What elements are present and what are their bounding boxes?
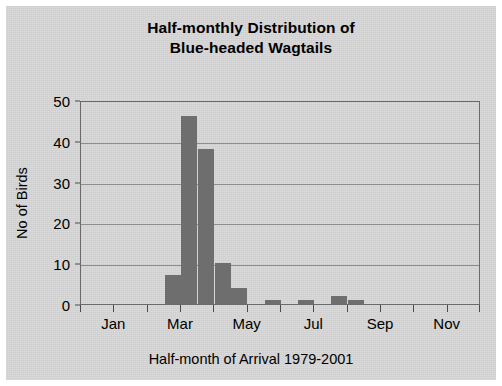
x-tick-mark [113,305,114,312]
x-axis-tick-labels: JanMarMayJulSepNov [80,315,480,335]
bar [198,149,214,304]
x-tick-mark [80,305,81,312]
x-tick-mark [147,305,148,312]
x-tick-label: May [232,315,260,332]
y-tick-label: 30 [53,174,70,191]
x-axis-title: Half-month of Arrival 1979-2001 [6,351,496,367]
x-tick-label: Mar [167,315,193,332]
x-tick-mark [313,305,314,312]
bar [181,116,197,304]
bar [331,296,347,304]
bar [348,300,364,304]
x-tick-mark [347,305,348,312]
y-tick-label: 0 [62,297,70,314]
chart-frame: Half-monthly Distribution of Blue-headed… [6,6,496,380]
bar [231,288,247,304]
bar [215,263,231,304]
bar [165,275,181,304]
bar-series [81,102,479,304]
x-tick-mark [380,305,381,312]
plot-area [80,101,480,305]
y-axis-ticks: 01020304050 [6,6,80,380]
x-tick-mark [247,305,248,312]
y-tick-label: 20 [53,215,70,232]
x-tick-mark [280,305,281,312]
chart-title-line1: Half-monthly Distribution of [147,19,355,36]
y-tick-label: 50 [53,93,70,110]
bar [265,300,281,304]
x-tick-mark [447,305,448,312]
y-tick-label: 40 [53,133,70,150]
x-tick-label: Nov [433,315,460,332]
x-tick-mark [180,305,181,312]
x-tick-mark [413,305,414,312]
x-tick-label: Jul [304,315,323,332]
x-tick-label: Jan [101,315,125,332]
x-tick-mark [213,305,214,312]
y-tick-label: 10 [53,256,70,273]
x-axis-ticks [80,305,480,313]
x-tick-label: Sep [367,315,394,332]
x-tick-mark [479,305,480,312]
bar [298,300,314,304]
